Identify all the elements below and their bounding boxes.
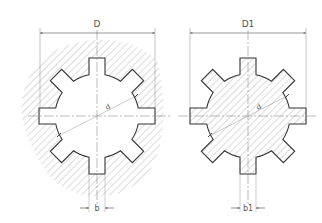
spline-drawing: D d b D1 d b1 (0, 0, 322, 223)
shaft-d-tick-2 (285, 94, 289, 98)
shaft-label-D1: D1 (242, 19, 255, 29)
hub-section: D d b (21, 19, 170, 213)
shaft-section: D1 d b1 (178, 19, 318, 213)
hub-label-D: D (94, 19, 101, 29)
hub-label-b: b (94, 204, 99, 213)
shaft-label-b1: b1 (243, 204, 253, 213)
